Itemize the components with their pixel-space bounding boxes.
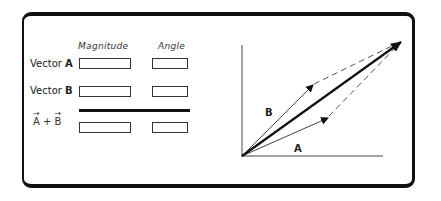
dashed-guide-from-b (314, 43, 398, 84)
vector-b-arrow (242, 85, 313, 156)
graph-label-a: A (294, 143, 302, 154)
vector-graph: B A (0, 0, 441, 201)
vector-a-arrow (242, 118, 328, 156)
resultant-arrow (242, 42, 401, 156)
dashed-guide-from-a (329, 44, 399, 116)
graph-label-b: B (265, 107, 273, 118)
